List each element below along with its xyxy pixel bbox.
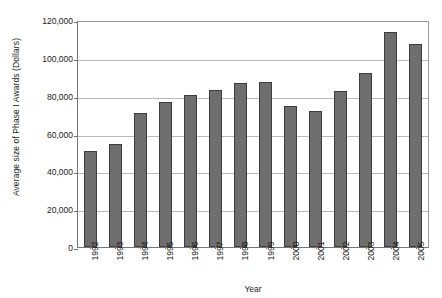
x-axis-tick-label: 2004 [391,242,401,261]
x-tick-slot: 1993 [102,249,127,283]
bar[interactable] [384,32,397,247]
x-tick-slot: 1999 [253,249,278,283]
bar[interactable] [159,102,172,247]
bar[interactable] [209,90,222,247]
y-axis-tick-label: 80,000 [47,92,73,102]
x-tick-slot: 2000 [278,249,303,283]
bar-slot [303,22,328,247]
x-axis-title: Year [77,284,429,294]
bar-slot [153,22,178,247]
x-tick-slot: 2003 [354,249,379,283]
x-axis-tick-label: 1998 [240,242,250,261]
bar[interactable] [234,83,247,247]
y-axis-tick-label: 0 [68,243,73,253]
x-axis-tick-label: 1996 [190,242,200,261]
x-axis-tick-label: 1992 [90,242,100,261]
bar-slot [178,22,203,247]
x-axis-tick-labels: 1992199319941995199619971998199920002001… [77,249,429,283]
bar[interactable] [259,82,272,247]
bar-slot [278,22,303,247]
bar-slot [253,22,278,247]
x-axis-tick-label: 2001 [316,242,326,261]
x-tick-slot: 1997 [203,249,228,283]
y-axis-tick-label: 100,000 [42,54,73,64]
x-axis-tick-label: 2000 [291,242,301,261]
bar-slot [128,22,153,247]
x-tick-slot: 1992 [77,249,102,283]
bar-slot [378,22,403,247]
bar-slot [403,22,428,247]
x-axis-tick-label: 1993 [115,242,125,261]
x-axis-tick-label: 1995 [165,242,175,261]
x-axis-tick-label: 1999 [266,242,276,261]
x-tick-slot: 2001 [303,249,328,283]
x-tick-slot: 1996 [178,249,203,283]
x-tick-slot: 1998 [228,249,253,283]
y-axis-tick-label: 20,000 [47,205,73,215]
bars-container [78,22,428,247]
plot-area [77,21,429,248]
bar[interactable] [84,151,97,247]
bar[interactable] [284,106,297,247]
y-axis-tick-label: 120,000 [42,16,73,26]
bar[interactable] [134,113,147,247]
bar-slot [103,22,128,247]
bar[interactable] [184,95,197,247]
bar-chart: Average size of Phase I Awards (Dollars)… [0,0,442,298]
bar-slot [328,22,353,247]
bar[interactable] [109,144,122,247]
y-axis-tick-label: 40,000 [47,167,73,177]
bar[interactable] [359,73,372,247]
x-axis-tick-label: 2005 [416,242,426,261]
y-axis-tick-label: 60,000 [47,130,73,140]
x-axis-tick-label: 1994 [140,242,150,261]
x-tick-slot: 1994 [127,249,152,283]
bar[interactable] [334,91,347,247]
x-tick-slot: 2004 [379,249,404,283]
bar-slot [353,22,378,247]
y-axis-title: Average size of Phase I Awards (Dollars) [11,0,21,237]
x-axis-tick-label: 1997 [215,242,225,261]
bar[interactable] [309,111,322,247]
x-tick-slot: 1995 [152,249,177,283]
bar-slot [203,22,228,247]
bar[interactable] [409,44,422,247]
bar-slot [78,22,103,247]
x-axis-tick-label: 2003 [366,242,376,261]
x-tick-slot: 2005 [404,249,429,283]
x-axis-tick-label: 2002 [341,242,351,261]
x-tick-slot: 2002 [328,249,353,283]
y-axis-tick-labels: 020,00040,00060,00080,000100,000120,000 [26,21,73,248]
bar-slot [228,22,253,247]
